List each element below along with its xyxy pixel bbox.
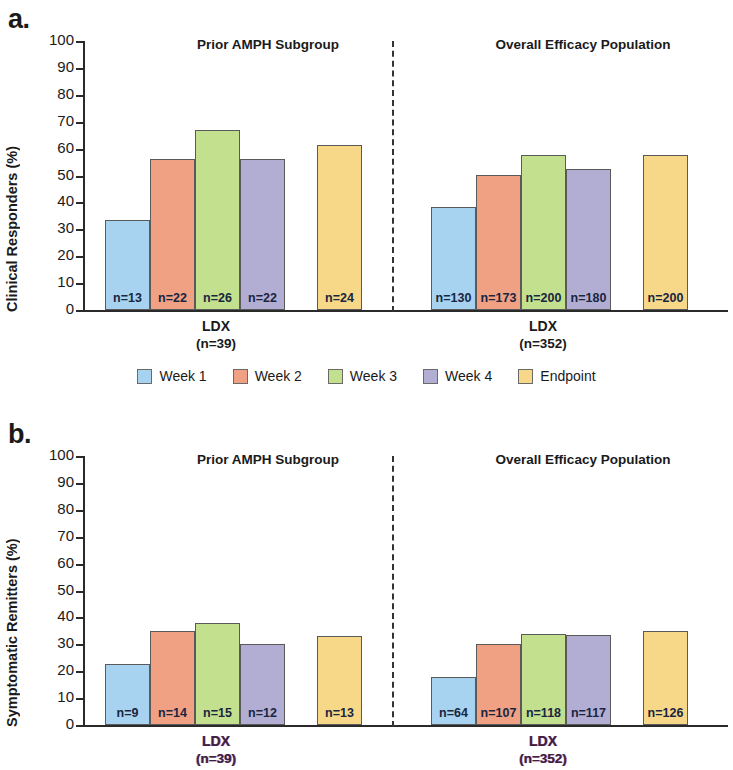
bar-endpoint-group0: n=13 bbox=[317, 636, 362, 725]
panel-a-x-group-label-1: LDX (n=352) bbox=[453, 318, 633, 352]
y-tick-mark bbox=[76, 510, 83, 512]
panel-b-group-title-0: Prior AMPH Subgroup bbox=[158, 452, 378, 467]
y-tick-label: 70 bbox=[34, 527, 74, 544]
panel-a-y-axis-label: Clinical Responders (%) bbox=[4, 62, 20, 312]
bar-n-label: n=64 bbox=[432, 706, 475, 720]
bar-n-label: n=200 bbox=[644, 291, 687, 305]
y-tick-mark bbox=[76, 671, 83, 673]
y-tick-mark bbox=[76, 537, 83, 539]
y-tick-mark bbox=[76, 283, 83, 285]
y-tick-mark bbox=[76, 644, 83, 646]
panel-a-letter: a. bbox=[8, 4, 30, 35]
bar-n-label: n=118 bbox=[522, 706, 565, 720]
bar-week-4-group1: n=117 bbox=[566, 635, 611, 725]
legend-item-week-1[interactable]: Week 1 bbox=[137, 368, 206, 384]
panel-b-y-axis-label: Symptomatic Remitters (%) bbox=[4, 457, 20, 727]
legend-label: Week 2 bbox=[255, 368, 302, 384]
panel-b-letter: b. bbox=[8, 419, 31, 450]
y-tick-label: 40 bbox=[34, 192, 74, 209]
bar-week-2-group0: n=22 bbox=[150, 159, 195, 310]
bar-n-label: n=200 bbox=[522, 291, 565, 305]
chart-legend: Week 1Week 2Week 3Week 4Endpoint bbox=[0, 368, 733, 384]
bar-n-label: n=12 bbox=[241, 706, 284, 720]
y-tick-mark bbox=[76, 229, 83, 231]
legend-label: Week 4 bbox=[445, 368, 492, 384]
bar-n-label: n=26 bbox=[196, 291, 239, 305]
y-tick-mark bbox=[76, 95, 83, 97]
y-tick-mark bbox=[76, 591, 83, 593]
legend-label: Week 1 bbox=[159, 368, 206, 384]
bar-week-3-group1: n=118 bbox=[521, 634, 566, 725]
bar-week-4-group1: n=180 bbox=[566, 169, 611, 310]
panel-a-y-axis bbox=[83, 41, 85, 312]
panel-b-x-group-label-0: LDX (n=39) bbox=[126, 733, 306, 767]
y-tick-mark bbox=[76, 202, 83, 204]
y-tick-label: 30 bbox=[34, 219, 74, 236]
panel-a-x-group-label-0: LDX (n=39) bbox=[126, 318, 306, 352]
panel-b-x-label-0: LDX bbox=[202, 733, 230, 749]
legend-item-week-4[interactable]: Week 4 bbox=[423, 368, 492, 384]
y-tick-label: 10 bbox=[34, 688, 74, 705]
y-tick-label: 60 bbox=[34, 554, 74, 571]
y-tick-label: 30 bbox=[34, 634, 74, 651]
legend-item-endpoint[interactable]: Endpoint bbox=[518, 368, 595, 384]
y-tick-label: 100 bbox=[34, 446, 74, 463]
panel-b-x-group-label-1: LDX (n=352) bbox=[453, 733, 633, 767]
legend-swatch-icon bbox=[137, 369, 152, 384]
bar-n-label: n=14 bbox=[151, 706, 194, 720]
bar-n-label: n=9 bbox=[106, 706, 149, 720]
y-tick-mark bbox=[76, 41, 83, 43]
y-tick-mark bbox=[76, 310, 83, 312]
y-tick-mark bbox=[76, 256, 83, 258]
panel-b-y-axis bbox=[83, 456, 85, 727]
panel-b-x-axis bbox=[83, 725, 728, 727]
bar-week-1-group0: n=13 bbox=[105, 220, 150, 310]
panel-a-x-sublabel-0: (n=39) bbox=[126, 336, 306, 353]
y-tick-label: 60 bbox=[34, 139, 74, 156]
panel-a-group-divider bbox=[392, 41, 394, 312]
y-tick-mark bbox=[76, 176, 83, 178]
y-tick-label: 70 bbox=[34, 112, 74, 129]
bar-week-1-group1: n=64 bbox=[431, 677, 476, 725]
panel-a-plot-area: Prior AMPH Subgroup Overall Efficacy Pop… bbox=[83, 41, 728, 312]
panel-b-x-sublabel-0: (n=39) bbox=[126, 751, 306, 768]
y-tick-label: 20 bbox=[34, 661, 74, 678]
bar-n-label: n=173 bbox=[477, 291, 520, 305]
bar-n-label: n=13 bbox=[106, 291, 149, 305]
bar-n-label: n=130 bbox=[432, 291, 475, 305]
legend-swatch-icon bbox=[518, 369, 533, 384]
legend-item-week-2[interactable]: Week 2 bbox=[233, 368, 302, 384]
bar-endpoint-group1: n=200 bbox=[643, 155, 688, 310]
bar-week-2-group1: n=173 bbox=[476, 175, 521, 310]
y-tick-mark bbox=[76, 483, 83, 485]
bar-n-label: n=107 bbox=[477, 706, 520, 720]
legend-label: Endpoint bbox=[540, 368, 595, 384]
y-tick-mark bbox=[76, 725, 83, 727]
bar-n-label: n=180 bbox=[567, 291, 610, 305]
panel-a-x-label-1: LDX bbox=[529, 318, 557, 334]
panel-a-x-label-0: LDX bbox=[202, 318, 230, 334]
panel-a-group-title-0: Prior AMPH Subgroup bbox=[158, 37, 378, 52]
bar-endpoint-group1: n=126 bbox=[643, 631, 688, 725]
bar-n-label: n=126 bbox=[644, 706, 687, 720]
y-tick-mark bbox=[76, 122, 83, 124]
y-tick-label: 100 bbox=[34, 31, 74, 48]
y-tick-label: 90 bbox=[34, 473, 74, 490]
y-tick-label: 90 bbox=[34, 58, 74, 75]
y-tick-label: 80 bbox=[34, 85, 74, 102]
y-tick-mark bbox=[76, 456, 83, 458]
panel-b: b. Symptomatic Remitters (%) Prior AMPH … bbox=[0, 415, 733, 770]
panel-b-group-divider bbox=[392, 456, 394, 727]
bar-week-2-group1: n=107 bbox=[476, 644, 521, 725]
legend-swatch-icon bbox=[233, 369, 248, 384]
y-tick-mark bbox=[76, 564, 83, 566]
panel-b-group-title-1: Overall Efficacy Population bbox=[473, 452, 693, 467]
bar-week-1-group0: n=9 bbox=[105, 664, 150, 725]
panel-b-x-sublabel-1: (n=352) bbox=[453, 751, 633, 768]
legend-item-week-3[interactable]: Week 3 bbox=[328, 368, 397, 384]
bar-n-label: n=13 bbox=[318, 706, 361, 720]
bar-n-label: n=24 bbox=[318, 291, 361, 305]
panel-a-x-axis bbox=[83, 310, 728, 312]
panel-b-x-label-1: LDX bbox=[529, 733, 557, 749]
bar-week-2-group0: n=14 bbox=[150, 631, 195, 725]
